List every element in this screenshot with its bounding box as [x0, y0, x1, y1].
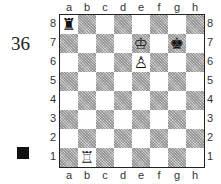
file-label-d-top: d: [114, 1, 132, 13]
square-h1[interactable]: [186, 148, 204, 167]
square-f2[interactable]: [150, 129, 168, 148]
square-g2[interactable]: [168, 129, 186, 148]
square-d7[interactable]: [114, 34, 132, 53]
file-label-e-top: e: [132, 1, 150, 13]
file-label-g-top: g: [168, 1, 186, 13]
white-king-icon[interactable]: ♔: [132, 34, 150, 53]
square-e6[interactable]: ♙: [132, 53, 150, 72]
file-label-g-bottom: g: [168, 169, 186, 181]
diagram-number: 36: [11, 33, 30, 55]
file-label-c-bottom: c: [96, 169, 114, 181]
square-f7[interactable]: [150, 34, 168, 53]
square-a1[interactable]: [60, 148, 78, 167]
square-b7[interactable]: [78, 34, 96, 53]
file-label-b-bottom: b: [78, 169, 96, 181]
square-a3[interactable]: [60, 110, 78, 129]
square-g3[interactable]: [168, 110, 186, 129]
square-e5[interactable]: [132, 72, 150, 91]
square-f5[interactable]: [150, 72, 168, 91]
white-pawn-icon[interactable]: ♙: [132, 53, 150, 72]
square-b1[interactable]: ♖: [78, 148, 96, 167]
file-label-f-bottom: f: [150, 169, 168, 181]
square-c2[interactable]: [96, 129, 114, 148]
square-a2[interactable]: [60, 129, 78, 148]
square-g7[interactable]: ♚: [168, 34, 186, 53]
square-d2[interactable]: [114, 129, 132, 148]
square-h8[interactable]: [186, 15, 204, 34]
rank-label-8-left: 8: [48, 17, 58, 29]
square-c3[interactable]: [96, 110, 114, 129]
square-f6[interactable]: [150, 53, 168, 72]
square-d5[interactable]: [114, 72, 132, 91]
square-h5[interactable]: [186, 72, 204, 91]
file-label-a-bottom: a: [60, 169, 78, 181]
rank-label-7-left: 7: [48, 36, 58, 48]
rank-label-5-right: 5: [205, 74, 215, 86]
square-h6[interactable]: [186, 53, 204, 72]
square-e8[interactable]: [132, 15, 150, 34]
square-h3[interactable]: [186, 110, 204, 129]
square-g1[interactable]: [168, 148, 186, 167]
square-b8[interactable]: [78, 15, 96, 34]
square-g8[interactable]: [168, 15, 186, 34]
square-h2[interactable]: [186, 129, 204, 148]
square-d6[interactable]: [114, 53, 132, 72]
square-d3[interactable]: [114, 110, 132, 129]
square-b2[interactable]: [78, 129, 96, 148]
square-f4[interactable]: [150, 91, 168, 110]
square-e7[interactable]: ♔: [132, 34, 150, 53]
square-h4[interactable]: [186, 91, 204, 110]
file-label-b-top: b: [78, 1, 96, 13]
square-c1[interactable]: [96, 148, 114, 167]
file-label-c-top: c: [96, 1, 114, 13]
rank-label-6-left: 6: [48, 55, 58, 67]
square-b6[interactable]: [78, 53, 96, 72]
square-c7[interactable]: [96, 34, 114, 53]
rank-label-3-right: 3: [205, 112, 215, 124]
square-a5[interactable]: [60, 72, 78, 91]
rank-label-1-right: 1: [205, 150, 215, 162]
square-e2[interactable]: [132, 129, 150, 148]
square-e1[interactable]: [132, 148, 150, 167]
square-e4[interactable]: [132, 91, 150, 110]
black-king-icon[interactable]: ♚: [168, 34, 186, 53]
square-g4[interactable]: [168, 91, 186, 110]
square-d4[interactable]: [114, 91, 132, 110]
white-rook-icon[interactable]: ♖: [78, 148, 96, 167]
file-label-h-top: h: [186, 1, 204, 13]
square-g6[interactable]: [168, 53, 186, 72]
square-f3[interactable]: [150, 110, 168, 129]
square-b4[interactable]: [78, 91, 96, 110]
rank-label-8-right: 8: [205, 17, 215, 29]
chess-board: ♜♔♚♙♖: [59, 14, 205, 168]
square-c8[interactable]: [96, 15, 114, 34]
square-b3[interactable]: [78, 110, 96, 129]
black-rook-icon[interactable]: ♜: [60, 15, 78, 34]
rank-label-6-right: 6: [205, 55, 215, 67]
square-c4[interactable]: [96, 91, 114, 110]
square-e3[interactable]: [132, 110, 150, 129]
file-label-h-bottom: h: [186, 169, 204, 181]
rank-label-4-left: 4: [48, 93, 58, 105]
square-d8[interactable]: [114, 15, 132, 34]
file-label-f-top: f: [150, 1, 168, 13]
square-a4[interactable]: [60, 91, 78, 110]
square-c5[interactable]: [96, 72, 114, 91]
square-f8[interactable]: [150, 15, 168, 34]
square-d1[interactable]: [114, 148, 132, 167]
file-label-e-bottom: e: [132, 169, 150, 181]
rank-label-5-left: 5: [48, 74, 58, 86]
black-to-move-marker: [17, 147, 29, 159]
rank-label-2-left: 2: [48, 131, 58, 143]
square-c6[interactable]: [96, 53, 114, 72]
square-g5[interactable]: [168, 72, 186, 91]
square-h7[interactable]: [186, 34, 204, 53]
square-f1[interactable]: [150, 148, 168, 167]
file-label-d-bottom: d: [114, 169, 132, 181]
rank-label-3-left: 3: [48, 112, 58, 124]
square-a6[interactable]: [60, 53, 78, 72]
rank-label-2-right: 2: [205, 131, 215, 143]
square-b5[interactable]: [78, 72, 96, 91]
square-a8[interactable]: ♜: [60, 15, 78, 34]
square-a7[interactable]: [60, 34, 78, 53]
